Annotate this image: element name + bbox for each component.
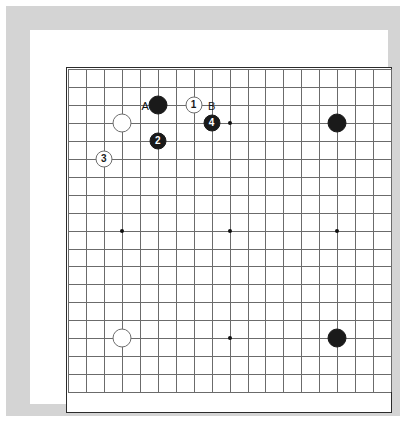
stone-white-upper-left-hoshi[interactable]	[112, 113, 131, 132]
grid-line-vertical	[373, 69, 374, 392]
grid-line-horizontal	[68, 320, 391, 321]
grid-line-vertical	[283, 69, 284, 392]
grid-line-vertical	[248, 69, 249, 392]
marker-b: B	[208, 100, 215, 111]
grid-line-horizontal	[68, 302, 391, 303]
stone-white-move-3[interactable]: 3	[95, 150, 112, 167]
stone-black-move-4[interactable]: 4	[203, 114, 220, 131]
grid-line-horizontal	[68, 266, 391, 267]
grid-line-horizontal	[68, 392, 391, 393]
grid-line-vertical	[319, 69, 320, 392]
grid-line-vertical	[391, 69, 392, 392]
stone-black-move-2[interactable]: 2	[149, 132, 166, 149]
star-point	[120, 229, 124, 233]
star-point	[228, 229, 232, 233]
grid-line-vertical	[355, 69, 356, 392]
go-diagram-page: 1234 AB	[0, 0, 406, 423]
stone-black-hoshi-top-right[interactable]	[328, 113, 347, 132]
grid-line-horizontal	[68, 356, 391, 357]
grid-line-vertical	[301, 69, 302, 392]
inner-mat: 1234 AB	[30, 30, 388, 404]
marker-a: A	[142, 100, 149, 111]
star-point	[228, 121, 232, 125]
star-point	[335, 229, 339, 233]
grid-line-horizontal	[68, 284, 391, 285]
stone-white-hoshi-bottom-left[interactable]	[112, 329, 131, 348]
grid-line-horizontal	[68, 374, 391, 375]
outer-frame: 1234 AB	[6, 6, 400, 416]
grid-line-vertical	[265, 69, 266, 392]
stone-black-upper-left-corner[interactable]	[148, 95, 167, 114]
go-board[interactable]: 1234 AB	[66, 67, 392, 413]
grid-line-horizontal	[68, 249, 391, 250]
star-point	[228, 336, 232, 340]
stone-black-hoshi-bottom-right[interactable]	[328, 329, 347, 348]
stone-white-move-1[interactable]: 1	[185, 96, 202, 113]
